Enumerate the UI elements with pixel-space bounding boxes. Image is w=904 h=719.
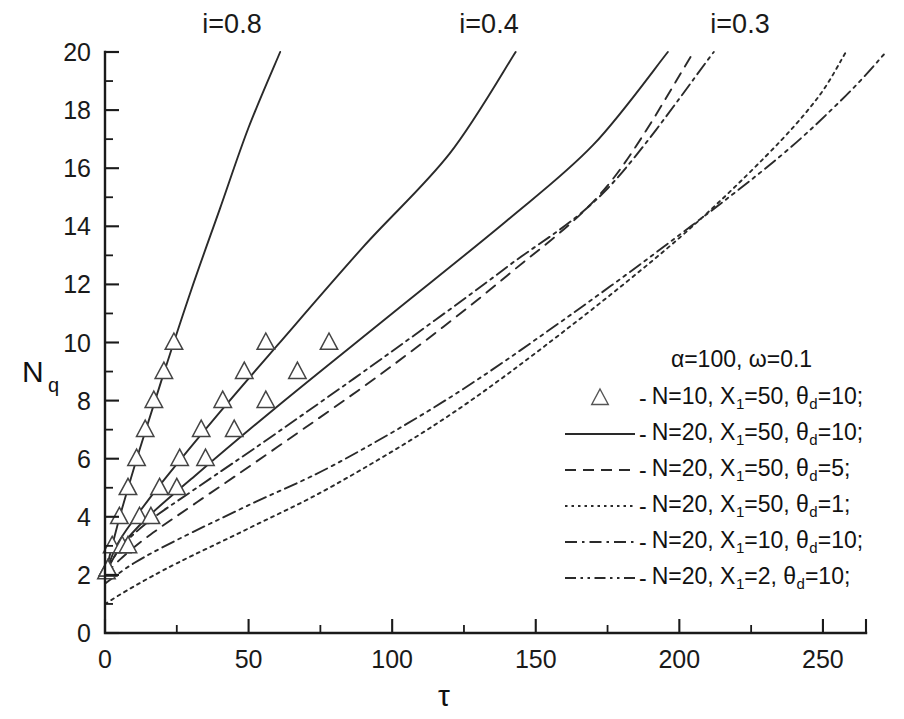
legend-x-subscript: 1 xyxy=(735,539,744,556)
legend-theta-value: =10; xyxy=(818,419,863,445)
x-tick-label: 100 xyxy=(371,645,413,673)
y-tick-label: 16 xyxy=(63,154,91,182)
data-marker-triangle xyxy=(171,449,189,465)
legend-x-symbol: X xyxy=(720,563,735,589)
legend-n-value: N=20, xyxy=(652,491,720,517)
legend-x-symbol: X xyxy=(720,419,735,445)
data-marker-triangle xyxy=(151,478,169,494)
legend-theta-subscript: d xyxy=(809,539,818,556)
data-marker-triangle xyxy=(99,560,117,576)
legend: α=100, ω=0.1 -N=10, X1=50, θd=10;-N=20, … xyxy=(565,348,900,596)
legend-item[interactable]: -N=20, X1=50, θd=10; xyxy=(565,416,900,452)
y-tick-label: 14 xyxy=(63,212,91,240)
legend-line-sample xyxy=(565,495,635,517)
legend-item-label: N=10, X1=50, θd=10; xyxy=(652,385,863,411)
y-tick-label: 4 xyxy=(77,503,91,531)
legend-x-value: =50, xyxy=(744,455,796,481)
legend-x-subscript: 1 xyxy=(735,431,744,448)
legend-x-subscript: 1 xyxy=(735,503,744,520)
legend-n-value: N=20, xyxy=(652,563,720,589)
legend-x-subscript: 1 xyxy=(735,467,744,484)
legend-x-value: =10, xyxy=(744,527,796,553)
legend-x-symbol: X xyxy=(720,455,735,481)
y-tick-label: 12 xyxy=(63,270,91,298)
legend-x-symbol: X xyxy=(720,491,735,517)
data-marker-triangle xyxy=(214,391,232,407)
legend-item-label: N=20, X1=2, θd=10; xyxy=(652,565,851,591)
legend-dash-separator: - xyxy=(637,387,652,410)
y-tick-label: 18 xyxy=(63,96,91,124)
legend-item[interactable]: -N=20, X1=10, θd=10; xyxy=(565,524,900,560)
legend-x-symbol: X xyxy=(720,383,735,409)
y-tick-label: 10 xyxy=(63,329,91,357)
legend-n-value: N=20, xyxy=(652,419,720,445)
data-marker-triangle xyxy=(119,478,137,494)
legend-item-label: N=20, X1=50, θd=1; xyxy=(652,493,851,519)
data-marker-triangle xyxy=(111,507,129,523)
legend-header: α=100, ω=0.1 xyxy=(583,348,900,371)
legend-x-value: =50, xyxy=(744,491,796,517)
legend-line-sample xyxy=(565,423,635,445)
data-marker-triangle xyxy=(155,362,173,378)
legend-theta-symbol: θ xyxy=(796,527,809,553)
legend-theta-subscript: d xyxy=(809,431,818,448)
chart-figure: 02468101214161820050100150200250 i=0.8i=… xyxy=(0,0,904,719)
legend-theta-symbol: θ xyxy=(783,563,796,589)
data-marker-triangle xyxy=(137,420,154,436)
legend-item-label: N=20, X1=10, θd=10; xyxy=(652,529,863,555)
curve-annotations-layer: i=0.8i=0.4i=0.3 xyxy=(202,9,769,39)
y-tick-label: 20 xyxy=(63,38,91,66)
legend-theta-symbol: θ xyxy=(796,383,809,409)
x-axis-title: τ xyxy=(438,679,450,712)
legend-theta-value: =10; xyxy=(818,527,863,553)
legend-x-value: =50, xyxy=(744,419,796,445)
data-marker-triangle xyxy=(257,333,275,349)
data-marker-triangle xyxy=(145,391,163,407)
legend-theta-subscript: d xyxy=(809,503,818,520)
x-tick-label: 50 xyxy=(235,645,263,673)
legend-item[interactable]: -N=20, X1=50, θd=5; xyxy=(565,452,900,488)
curve-annotation: i=0.3 xyxy=(710,9,769,39)
legend-item[interactable]: -N=20, X1=2, θd=10; xyxy=(565,560,900,596)
legend-x-subscript: 1 xyxy=(735,575,744,592)
legend-theta-symbol: θ xyxy=(796,419,809,445)
legend-line-sample xyxy=(565,567,635,589)
legend-line-sample xyxy=(565,531,635,553)
legend-dash-separator: - xyxy=(637,459,652,482)
legend-n-value: N=10, xyxy=(652,383,720,409)
legend-theta-value: =10; xyxy=(805,563,850,589)
legend-line-sample xyxy=(565,459,635,481)
data-marker-triangle xyxy=(236,362,254,378)
legend-dash-separator: - xyxy=(637,531,652,554)
legend-dash-separator: - xyxy=(637,567,652,590)
data-marker-triangle xyxy=(226,420,244,436)
legend-rows: -N=10, X1=50, θd=10;-N=20, X1=50, θd=10;… xyxy=(565,380,900,596)
legend-x-value: =50, xyxy=(744,383,796,409)
legend-dash-separator: - xyxy=(637,495,652,518)
y-tick-label: 0 xyxy=(77,619,91,647)
legend-line-sample xyxy=(565,387,635,409)
legend-item-label: N=20, X1=50, θd=10; xyxy=(652,421,863,447)
data-marker-triangle xyxy=(257,391,275,407)
legend-theta-subscript: d xyxy=(809,395,818,412)
legend-item[interactable]: -N=20, X1=50, θd=1; xyxy=(565,488,900,524)
data-marker-triangle xyxy=(197,449,214,465)
curve-annotation: i=0.8 xyxy=(202,9,261,39)
legend-item-label: N=20, X1=50, θd=5; xyxy=(652,457,851,483)
x-tick-label: 0 xyxy=(98,645,112,673)
y-axis-title-subscript: q xyxy=(48,374,59,396)
y-tick-label: 8 xyxy=(77,387,91,415)
x-tick-label: 200 xyxy=(658,645,700,673)
y-axis-title: N xyxy=(22,355,44,388)
y-tick-label: 6 xyxy=(77,445,91,473)
data-marker-triangle xyxy=(128,449,146,465)
legend-x-subscript: 1 xyxy=(735,395,744,412)
x-tick-label: 150 xyxy=(515,645,557,673)
legend-marker-triangle-icon xyxy=(592,389,609,404)
data-marker-triangle xyxy=(165,333,183,349)
legend-theta-value: =5; xyxy=(818,455,851,481)
y-tick-label: 2 xyxy=(77,561,91,589)
data-curve xyxy=(105,52,280,575)
legend-item[interactable]: -N=10, X1=50, θd=10; xyxy=(565,380,900,416)
legend-n-value: N=20, xyxy=(652,527,720,553)
